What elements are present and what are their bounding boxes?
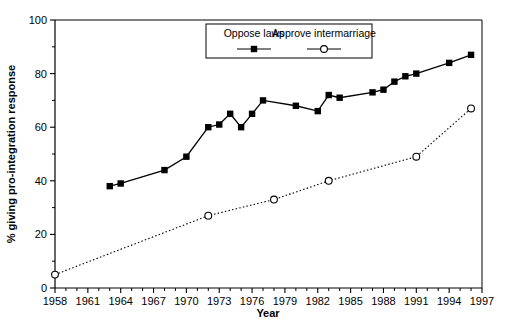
data-point-marker xyxy=(293,103,299,109)
x-tick-label: 1979 xyxy=(273,295,297,307)
x-tick-label: 1970 xyxy=(174,295,198,307)
data-point-marker xyxy=(260,97,266,103)
x-tick-label: 1973 xyxy=(207,295,231,307)
line-chart: 020406080100 195819611964196719701973197… xyxy=(0,0,530,323)
data-point-marker xyxy=(216,121,222,127)
legend-marker-circle xyxy=(321,46,328,53)
data-point-marker xyxy=(413,153,420,160)
x-tick-label: 1985 xyxy=(338,295,362,307)
y-tick-label: 20 xyxy=(35,228,47,240)
y-tick-label: 60 xyxy=(35,121,47,133)
legend-marker-square xyxy=(251,46,257,52)
x-tick-label: 1976 xyxy=(240,295,264,307)
x-tick-label: 1958 xyxy=(43,295,67,307)
data-point-marker xyxy=(117,180,123,186)
x-axis-ticks: 1958196119641967197019731976197919821985… xyxy=(43,288,494,307)
series-1 xyxy=(107,52,475,190)
chart-legend: Oppose lawsApprove intermarriage xyxy=(206,24,376,58)
y-tick-label: 0 xyxy=(41,282,47,294)
data-point-marker xyxy=(205,124,211,130)
data-point-marker xyxy=(326,92,332,98)
data-point-marker xyxy=(205,212,212,219)
y-axis-title: % giving pro-integration response xyxy=(5,65,17,243)
data-point-marker xyxy=(402,73,408,79)
data-point-marker xyxy=(413,70,419,76)
data-point-marker xyxy=(325,177,332,184)
data-point-marker xyxy=(107,183,113,189)
data-point-marker xyxy=(315,108,321,114)
data-point-marker xyxy=(380,86,386,92)
data-point-marker xyxy=(468,105,475,112)
y-tick-label: 40 xyxy=(35,175,47,187)
y-axis-ticks: 020406080100 xyxy=(29,14,55,294)
x-tick-label: 1991 xyxy=(404,295,428,307)
x-tick-label: 1967 xyxy=(141,295,165,307)
data-point-marker xyxy=(391,78,397,84)
series-2 xyxy=(52,105,475,278)
data-point-marker xyxy=(238,124,244,130)
data-point-marker xyxy=(183,153,189,159)
data-series-group xyxy=(52,52,475,278)
data-point-marker xyxy=(249,111,255,117)
chart-figure: 020406080100 195819611964196719701973197… xyxy=(0,0,530,323)
y-tick-label: 100 xyxy=(29,14,47,26)
data-point-marker xyxy=(369,89,375,95)
data-point-marker xyxy=(271,196,278,203)
y-tick-label: 80 xyxy=(35,68,47,80)
series-line xyxy=(55,108,471,274)
data-point-marker xyxy=(468,52,474,58)
data-point-marker xyxy=(446,60,452,66)
data-point-marker xyxy=(52,271,59,278)
x-tick-label: 1994 xyxy=(437,295,461,307)
x-tick-label: 1961 xyxy=(76,295,100,307)
data-point-marker xyxy=(336,95,342,101)
x-axis-title: Year xyxy=(256,307,280,319)
x-tick-label: 1988 xyxy=(371,295,395,307)
data-point-marker xyxy=(161,167,167,173)
legend-label-2: Approve intermarriage xyxy=(272,27,376,39)
x-tick-label: 1997 xyxy=(470,295,494,307)
data-point-marker xyxy=(227,111,233,117)
x-tick-label: 1964 xyxy=(108,295,132,307)
x-tick-label: 1982 xyxy=(306,295,330,307)
